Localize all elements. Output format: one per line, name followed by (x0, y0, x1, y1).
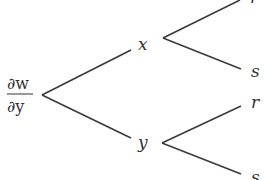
edge-root-y (42, 95, 131, 138)
node-x: x (138, 34, 148, 54)
node-y-r: r (251, 92, 260, 112)
node-x-r: r (250, 0, 259, 7)
node-y-s: s (251, 167, 260, 180)
node-x-s: s (251, 61, 260, 81)
root-numerator: ∂w (7, 74, 29, 93)
edge-y-s (162, 143, 241, 174)
edge-root-x (42, 50, 131, 95)
node-y: y (137, 132, 148, 152)
tree-diagram: ∂w ∂y x y r s r s (0, 0, 267, 180)
edge-x-s (163, 38, 241, 69)
edge-x-r (163, 0, 240, 38)
root-denominator: ∂y (7, 97, 24, 116)
edge-y-r (162, 106, 241, 143)
